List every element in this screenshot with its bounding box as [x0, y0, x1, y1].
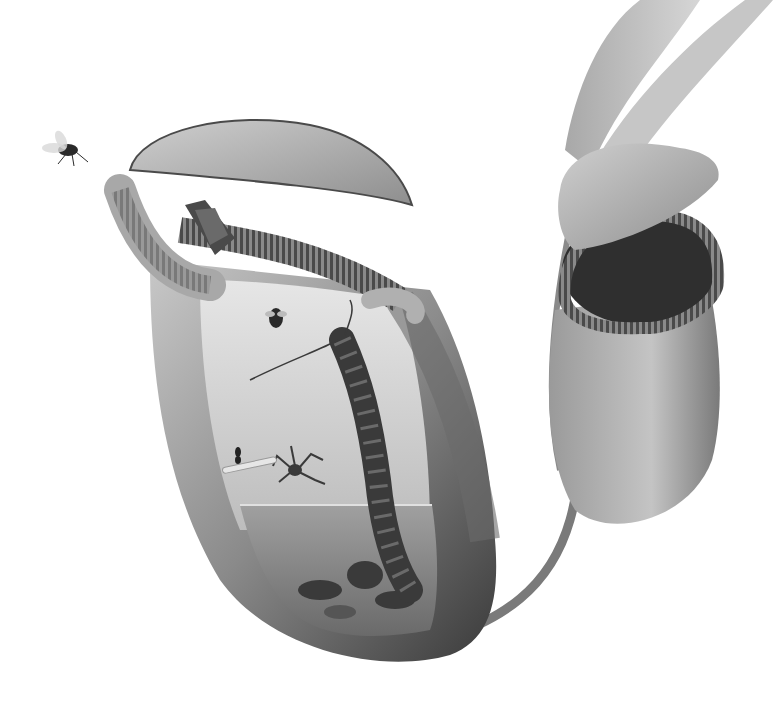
secondary-pitcher [549, 143, 720, 523]
main-pitcher-lid [130, 120, 412, 205]
ant [235, 447, 241, 464]
main-pitcher [150, 260, 496, 662]
pitcher-plant-illustration [0, 0, 773, 710]
flying-fly [42, 129, 88, 166]
